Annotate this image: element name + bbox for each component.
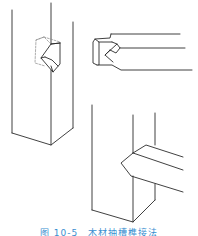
- vertical-post-with-notch: [12, 3, 73, 145]
- horizontal-beam-with-tenon: [93, 34, 192, 70]
- assembled-joint: [92, 105, 183, 222]
- joint-diagram: [0, 0, 198, 236]
- figure-caption: 图 10-5 木材抽槽榫接法: [0, 226, 198, 236]
- joint-diagram-svg: [0, 0, 198, 236]
